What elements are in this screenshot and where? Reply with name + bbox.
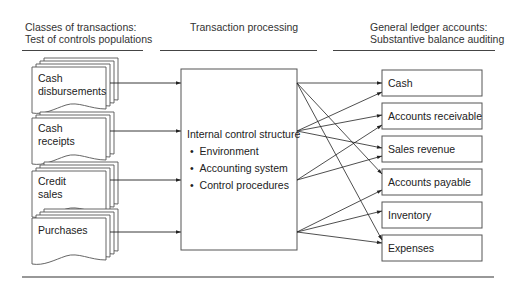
doc-label-line: disbursements xyxy=(38,85,106,98)
bullet-text: Environment xyxy=(200,145,259,157)
internal-control-structure: Internal control structure • Environment… xyxy=(187,126,300,194)
bullet-text: Control procedures xyxy=(200,179,289,191)
doc-label-credit-sales: Credit sales xyxy=(38,175,66,200)
doc-label-cash-disbursements: Cash disbursements xyxy=(38,72,106,97)
doc-label-line: sales xyxy=(38,188,66,201)
doc-label-line: receipts xyxy=(38,135,75,148)
processing-bullet-environment: • Environment xyxy=(187,143,300,160)
doc-label-line: Cash xyxy=(38,72,106,85)
account-sales-revenue: Sales revenue xyxy=(388,143,455,155)
account-inventory: Inventory xyxy=(388,209,431,221)
account-accounts-receivable: Accounts receivable xyxy=(388,110,482,122)
bullet-icon: • xyxy=(190,162,194,174)
doc-label-cash-receipts: Cash receipts xyxy=(38,122,75,147)
processing-bullet-control-procedures: • Control procedures xyxy=(187,177,300,194)
doc-label-line: Cash xyxy=(38,122,75,135)
bullet-icon: • xyxy=(190,145,194,157)
bullet-icon: • xyxy=(190,179,194,191)
processing-bullet-accounting-system: • Accounting system xyxy=(187,160,300,177)
account-accounts-payable: Accounts payable xyxy=(388,176,471,188)
account-expenses: Expenses xyxy=(388,242,434,254)
processing-title: Internal control structure xyxy=(187,126,300,143)
doc-label-line: Purchases xyxy=(38,224,88,237)
doc-label-purchases: Purchases xyxy=(38,224,88,237)
account-cash: Cash xyxy=(388,77,413,89)
doc-stack-purchases xyxy=(32,209,118,264)
bullet-text: Accounting system xyxy=(200,162,288,174)
doc-label-line: Credit xyxy=(38,175,66,188)
